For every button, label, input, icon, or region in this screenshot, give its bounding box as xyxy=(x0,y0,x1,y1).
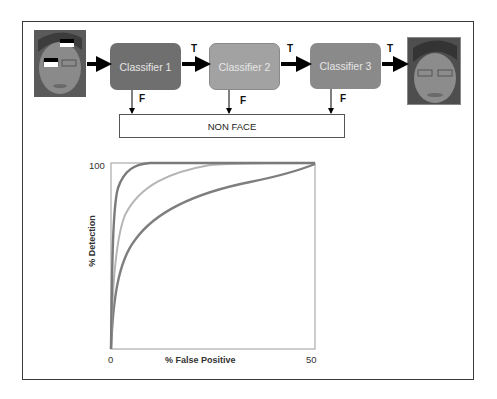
y-tick-100: 100 xyxy=(89,160,105,171)
x-tick-0: 0 xyxy=(108,354,113,365)
y-axis-title: % Detection xyxy=(87,211,97,271)
x-tick-50: 50 xyxy=(306,354,317,365)
x-axis-title: % False Positive xyxy=(165,355,236,365)
roc-chart xyxy=(0,0,497,399)
